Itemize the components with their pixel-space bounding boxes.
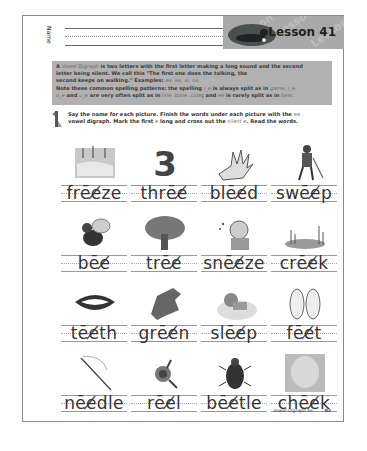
word-item: slēe̸p	[201, 284, 267, 354]
word-item: swēe̸p	[271, 144, 337, 214]
word-item: 3thrēe̸	[131, 144, 197, 214]
number-three-picture: 3	[143, 144, 187, 182]
word-text: crēe̸k	[271, 254, 337, 273]
word-item: bēe̸	[61, 214, 127, 284]
word-item: nēe̸dle	[61, 354, 127, 424]
word-item: blēe̸d	[201, 144, 267, 214]
word-item: snēe̸ze	[201, 214, 267, 284]
bee-picture	[73, 214, 117, 252]
word-item: grēe̸n	[131, 284, 197, 354]
word-item: tēe̸th	[61, 284, 127, 354]
word-text: bēe̸	[61, 254, 127, 273]
green-splotch-picture	[143, 284, 187, 322]
name-line-base	[65, 45, 223, 46]
feet-picture	[283, 284, 327, 322]
word-item: trēe̸	[131, 214, 197, 284]
lesson-header: Lesson Lesson Lesson Lesson 41	[223, 16, 344, 49]
instructions: Say the name for each picture. Finish th…	[52, 111, 337, 126]
name-label: Name	[46, 26, 53, 44]
word-text: slēe̸p	[201, 324, 267, 343]
worksheet-page: Name Lesson Lesson Lesson Lesson 41 A Vo…	[22, 15, 344, 422]
word-text: bēe̸tle	[201, 394, 267, 413]
word-text: fēe̸t	[271, 324, 337, 343]
footer-label: Vowel Digraph ee	[273, 408, 313, 413]
word-item: frēe̸ze	[61, 144, 127, 214]
word-item: bēe̸tle	[201, 354, 267, 424]
man-sweeping-picture	[283, 144, 327, 182]
bleeding-hand-picture	[213, 144, 257, 182]
child-sleeping-picture	[213, 284, 257, 322]
teeth-smile-picture	[73, 284, 117, 322]
word-text: swēe̸p	[271, 184, 337, 203]
name-line-top	[65, 28, 223, 29]
page-number: 83	[325, 408, 331, 413]
word-text: frēe̸ze	[61, 184, 127, 203]
word-text: blēe̸d	[201, 184, 267, 203]
person-sneezing-picture	[213, 214, 257, 252]
word-text: trēe̸	[131, 254, 197, 273]
needle-picture	[73, 354, 117, 392]
name-line-mid	[65, 36, 223, 37]
creek-picture	[283, 214, 327, 252]
lesson-title: Lesson 41	[268, 25, 336, 39]
word-text: grēe̸n	[131, 324, 197, 343]
fishing-reel-picture	[143, 354, 187, 392]
svg-text:3: 3	[153, 144, 177, 182]
word-text: snēe̸ze	[201, 254, 267, 273]
tree-picture	[143, 214, 187, 252]
beetle-picture	[213, 354, 257, 392]
word-item: crēe̸k	[271, 214, 337, 284]
word-text: tēe̸th	[61, 324, 127, 343]
pencil-number-1-icon	[52, 111, 62, 127]
word-text: rēe̸l	[131, 394, 197, 413]
footer: Vowel Digraph ee83	[273, 408, 331, 413]
word-text: nēe̸dle	[61, 394, 127, 413]
frozen-pond-picture	[73, 144, 117, 182]
word-item: rēe̸l	[131, 354, 197, 424]
baby-cheek-picture	[283, 354, 327, 392]
word-text: thrēe̸	[131, 184, 197, 203]
word-item: chēe̸k	[271, 354, 337, 424]
word-item: fēe̸t	[271, 284, 337, 354]
info-box: A Vowel Digraph is two letters with the …	[52, 61, 332, 105]
